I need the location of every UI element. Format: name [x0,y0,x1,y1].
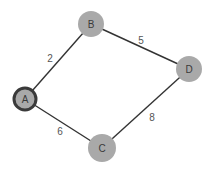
edges-layer [25,24,189,148]
node-label: D [185,64,192,75]
edge-labels-layer: 2586 [47,35,155,137]
edge-d-c [102,69,189,148]
node-d: D [176,56,202,82]
graph-canvas: 2586 ABCD [0,0,216,171]
node-b: B [78,11,104,37]
edge-b-d [91,24,189,69]
node-a: A [14,88,36,110]
edge-weight-label: 5 [138,35,144,46]
nodes-layer: ABCD [14,11,202,162]
edge-weight-label: 8 [149,112,155,123]
edge-weight-label: 6 [57,126,63,137]
node-c: C [88,134,116,162]
node-label: A [22,94,29,105]
node-label: B [88,19,95,30]
edge-weight-label: 2 [47,53,53,64]
edge-a-b [25,24,91,99]
node-label: C [98,143,105,154]
